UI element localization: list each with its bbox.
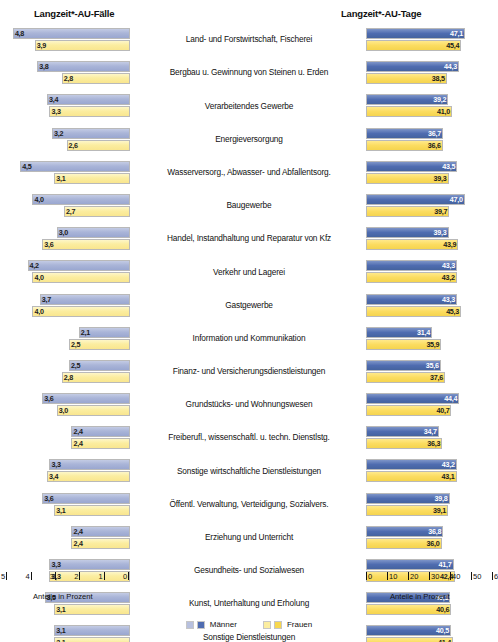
right-axis-tick: 40 — [450, 572, 460, 581]
value-tage-frauen: 41,0 — [434, 106, 450, 117]
right-panel-row: 31,435,9 — [364, 322, 498, 355]
value-faelle-frauen: 3,1 — [56, 173, 65, 184]
chart-row: 2,12,5Information und Kommunikation31,43… — [0, 322, 498, 355]
value-tage-maenner: 39,2 — [430, 94, 446, 105]
value-tage-frauen: 41,4 — [435, 637, 451, 642]
value-faelle-frauen: 2,4 — [73, 538, 82, 549]
value-faelle-frauen: 3,1 — [56, 604, 65, 615]
bar-faelle-maenner — [49, 559, 130, 570]
value-faelle-maenner: 2,4 — [73, 426, 82, 437]
value-faelle-maenner: 4,0 — [34, 194, 43, 205]
value-tage-frauen: 39,3 — [431, 173, 447, 184]
value-tage-maenner: 43,2 — [439, 459, 455, 470]
legend-swatch-dark-icon — [197, 621, 205, 629]
value-faelle-frauen: 4,0 — [34, 272, 43, 283]
chart-row: 3,63,0Grundstücks- und Wohnungswesen44,4… — [0, 388, 498, 421]
chart-row: 2,52,8Finanz- und Versicherungsdienstlei… — [0, 355, 498, 388]
category-label: Verkehr und Lagerei — [133, 255, 365, 288]
left-panel-row: 2,12,5 — [0, 322, 132, 355]
legend-item: Frauen — [263, 620, 312, 629]
right-panel-row: 47,039,7 — [364, 189, 498, 222]
left-panel-row: 4,83,9 — [0, 23, 132, 56]
bar-faelle-maenner — [20, 161, 130, 172]
value-tage-maenner: 43,5 — [439, 161, 455, 172]
chart-row: 3,82,8Bergbau u. Gewinnung von Steinen u… — [0, 56, 498, 89]
right-panel-row: 36,736,6 — [364, 123, 498, 156]
left-axis-tick: 0 — [123, 572, 129, 581]
value-tage-maenner: 39,8 — [432, 493, 448, 504]
legend-label: Männer — [210, 620, 237, 629]
left-axis-tick: 3 — [50, 572, 56, 581]
right-panel-row: 36,836,0 — [364, 521, 498, 554]
legend-swatch-light-icon — [186, 621, 194, 629]
legend-swatch-light-icon — [263, 621, 271, 629]
value-faelle-frauen: 2,8 — [64, 73, 73, 84]
value-faelle-maenner: 3,7 — [42, 294, 51, 305]
right-panel-row: 43,343,2 — [364, 255, 498, 288]
value-faelle-frauen: 3,3 — [51, 106, 60, 117]
right-panel-row: 43,345,3 — [364, 289, 498, 322]
left-axis-tick: 4 — [25, 572, 31, 581]
value-tage-frauen: 38,5 — [429, 73, 445, 84]
value-faelle-frauen: 3,1 — [56, 505, 65, 516]
value-tage-maenner: 47,1 — [447, 28, 463, 39]
value-tage-maenner: 31,4 — [414, 327, 430, 338]
value-tage-maenner: 35,6 — [423, 360, 439, 371]
right-axis-tick: 20 — [408, 572, 418, 581]
bar-faelle-maenner — [42, 393, 130, 404]
right-axis-caption: Anteile in Prozent — [390, 592, 450, 601]
value-faelle-maenner: 3,4 — [49, 94, 58, 105]
value-tage-maenner: 36,7 — [425, 128, 441, 139]
value-tage-maenner: 44,4 — [441, 393, 457, 404]
left-panel-row: 3,63,0 — [0, 388, 132, 421]
chart-row: 4,02,7Baugewerbe47,039,7 — [0, 189, 498, 222]
chart-row: 4,24,0Verkehr und Lagerei43,343,2 — [0, 255, 498, 288]
chart-row: 3,63,1Öffentl. Verwaltung, Verteidigung,… — [0, 488, 498, 521]
right-axis-tick: 60 — [492, 572, 498, 581]
legend-label: Frauen — [287, 620, 312, 629]
left-panel-row: 4,02,7 — [0, 189, 132, 222]
left-panel-row: 2,42,4 — [0, 521, 132, 554]
chart-row: 2,42,4Erziehung und Unterricht36,836,0 — [0, 521, 498, 554]
value-faelle-maenner: 4,8 — [15, 28, 24, 39]
value-faelle-maenner: 2,5 — [71, 360, 80, 371]
category-label: Grundstücks- und Wohnungswesen — [133, 388, 365, 421]
value-faelle-maenner: 4,5 — [22, 161, 31, 172]
bar-faelle-maenner — [28, 260, 130, 271]
bar-faelle-maenner — [37, 61, 130, 72]
category-label: Information und Kommunikation — [133, 322, 365, 355]
bar-faelle-frauen — [35, 40, 130, 51]
top-cropped-caption — [250, 0, 430, 7]
left-panel-row: 3,43,3 — [0, 89, 132, 122]
right-axis: 0102030405060 — [360, 572, 498, 588]
value-faelle-frauen: 2,7 — [66, 206, 75, 217]
category-label: Wasserversorg., Abwasser- und Abfallents… — [133, 156, 365, 189]
bar-faelle-maenner — [49, 459, 130, 470]
value-tage-maenner: 44,3 — [441, 61, 457, 72]
legend-swatch-dark-icon — [274, 621, 282, 629]
value-tage-frauen: 36,3 — [424, 438, 440, 449]
value-tage-maenner: 34,7 — [421, 426, 437, 437]
chart-page: Langzeit*-AU-Fälle Langzeit*-AU-Tage 4,8… — [0, 0, 498, 642]
chart-row: 4,53,1Wasserversorg., Abwasser- und Abfa… — [0, 156, 498, 189]
bar-faelle-frauen — [32, 306, 130, 317]
category-label: Handel, Instandhaltung und Reparatur von… — [133, 222, 365, 255]
left-panel-row: 3,63,1 — [0, 488, 132, 521]
right-panel-row: 44,338,5 — [364, 56, 498, 89]
value-faelle-frauen: 2,8 — [64, 372, 73, 383]
value-tage-frauen: 40,6 — [433, 604, 449, 615]
chart-rows: 4,83,9Land- und Forstwirtschaft, Fischer… — [0, 23, 498, 642]
value-faelle-frauen: 2,5 — [71, 339, 80, 350]
value-tage-frauen: 37,6 — [427, 372, 443, 383]
chart-row: 3,43,3Verarbeitendes Gewerbe39,241,0 — [0, 89, 498, 122]
value-faelle-frauen: 2,6 — [69, 140, 78, 151]
value-tage-maenner: 43,3 — [439, 294, 455, 305]
right-panel-row: 35,637,6 — [364, 355, 498, 388]
value-tage-maenner: 41,7 — [436, 559, 452, 570]
value-faelle-frauen: 3,0 — [59, 405, 68, 416]
chart-row: 3,03,6Handel, Instandhaltung und Reparat… — [0, 222, 498, 255]
category-label: Freiberufl., wissenschaftl. u. techn. Di… — [133, 421, 365, 454]
bar-faelle-frauen — [32, 272, 130, 283]
value-faelle-frauen: 3,6 — [44, 239, 53, 250]
category-label: Land- und Forstwirtschaft, Fischerei — [133, 23, 365, 56]
